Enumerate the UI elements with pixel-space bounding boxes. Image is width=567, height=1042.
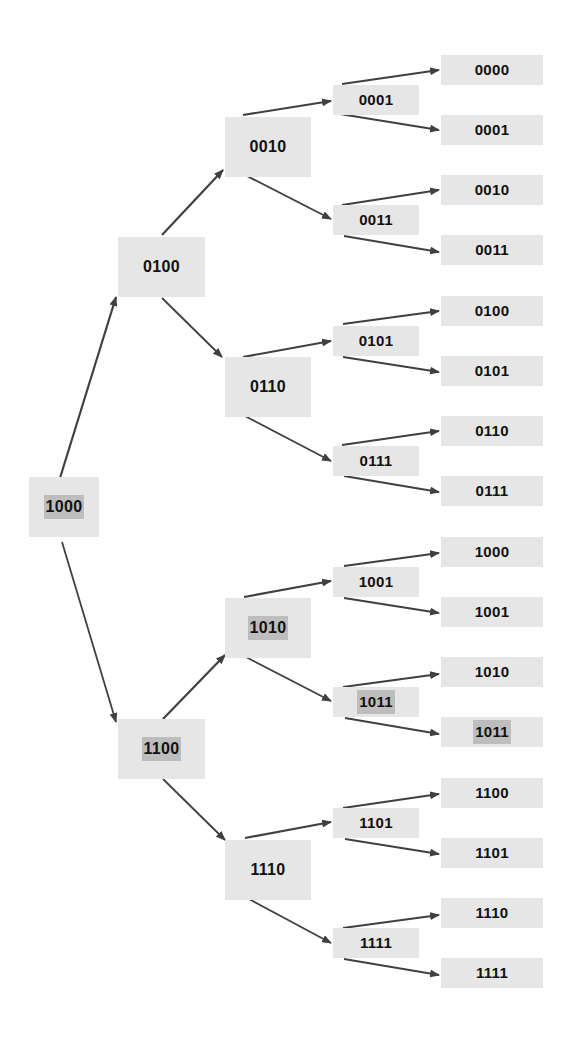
arrow-n0010-to-n0001 xyxy=(243,101,331,115)
node-label: 0100 xyxy=(141,255,182,279)
node-label: 0111 xyxy=(358,449,395,473)
node-n1001: 1001 xyxy=(333,567,419,597)
node-label: 0001 xyxy=(357,88,396,112)
node-n0011: 0011 xyxy=(333,205,419,235)
node-label: 1010 xyxy=(248,616,289,640)
arrow-n0111-to-l0110 xyxy=(342,431,439,445)
arrow-n0100-to-n0110 xyxy=(162,298,222,357)
node-l0001: 0001 xyxy=(441,115,543,145)
node-label: 1001 xyxy=(357,570,396,594)
arrow-n1111-to-l1111 xyxy=(344,959,439,975)
node-label: 0011 xyxy=(473,238,511,262)
arrow-n0011-to-l0011 xyxy=(344,236,439,252)
node-label: 0010 xyxy=(248,135,289,159)
arrow-n1101-to-l1101 xyxy=(345,839,439,854)
arrow-n1000-to-n1100 xyxy=(62,542,116,722)
node-label: 1000 xyxy=(473,540,512,564)
node-l0111: 0111 xyxy=(441,476,543,506)
arrow-n1001-to-l1000 xyxy=(344,553,439,566)
arrow-n1011-to-l1011 xyxy=(345,718,439,734)
arrow-n1011-to-l1010 xyxy=(343,674,439,687)
node-label: 1101 xyxy=(473,841,511,865)
node-n1101: 1101 xyxy=(333,808,419,838)
node-l0110: 0110 xyxy=(441,416,543,446)
node-label: 0000 xyxy=(473,58,512,82)
node-l1010: 1010 xyxy=(441,657,543,687)
node-n1110: 1110 xyxy=(225,840,311,900)
node-n1111: 1111 xyxy=(333,928,419,958)
arrow-n1010-to-n1011 xyxy=(244,656,331,701)
arrow-n0101-to-l0101 xyxy=(343,357,439,372)
node-l1000: 1000 xyxy=(441,537,543,567)
node-label: 0011 xyxy=(357,208,395,232)
arrow-n0001-to-l0001 xyxy=(340,114,439,130)
arrow-n0001-to-l0000 xyxy=(342,70,439,84)
node-label: 0101 xyxy=(357,329,396,353)
node-n1100: 1100 xyxy=(118,719,205,779)
node-n1010: 1010 xyxy=(225,598,311,658)
arrow-n1001-to-l1001 xyxy=(344,598,439,613)
node-label: 1110 xyxy=(248,858,287,882)
node-n1000: 1000 xyxy=(29,477,99,537)
arrow-n0010-to-n0011 xyxy=(245,175,331,219)
arrow-n1000-to-n0100 xyxy=(60,297,116,478)
node-n0111: 0111 xyxy=(333,446,419,476)
node-label: 1011 xyxy=(357,690,395,714)
node-l0101: 0101 xyxy=(441,356,543,386)
node-n0010: 0010 xyxy=(225,117,311,177)
node-n0110: 0110 xyxy=(225,357,311,417)
node-label: 1100 xyxy=(142,737,182,761)
node-label: 1001 xyxy=(473,600,512,624)
node-n0001: 0001 xyxy=(333,85,419,115)
arrow-n1111-to-l1110 xyxy=(343,915,439,928)
node-l1001: 1001 xyxy=(441,597,543,627)
node-label: 1110 xyxy=(474,901,511,925)
arrow-n0111-to-l0111 xyxy=(344,476,439,492)
node-label: 0001 xyxy=(473,118,512,142)
arrow-n0011-to-l0010 xyxy=(342,190,439,205)
node-n0101: 0101 xyxy=(333,326,419,356)
node-l1110: 1110 xyxy=(441,898,543,928)
binary-tree-diagram: 1000010011000010011010101110000100110101… xyxy=(0,0,567,1042)
node-n0100: 0100 xyxy=(118,237,205,297)
node-label: 1010 xyxy=(473,660,512,684)
node-label: 1000 xyxy=(44,495,85,519)
arrow-n1100-to-n1010 xyxy=(163,655,225,719)
arrow-n0110-to-n0111 xyxy=(243,415,331,461)
arrow-n1110-to-n1101 xyxy=(245,822,331,838)
arrow-n0101-to-l0100 xyxy=(343,311,439,324)
node-l1111: 1111 xyxy=(441,958,543,988)
node-label: 1111 xyxy=(358,931,394,955)
node-l0000: 0000 xyxy=(441,55,543,85)
node-l1101: 1101 xyxy=(441,838,543,868)
node-label: 0100 xyxy=(473,299,512,323)
arrow-n1100-to-n1110 xyxy=(163,779,225,840)
arrow-n1101-to-l1100 xyxy=(343,794,439,808)
node-label: 0010 xyxy=(473,178,512,202)
node-l1100: 1100 xyxy=(441,778,543,808)
arrow-n0100-to-n0010 xyxy=(162,170,223,235)
arrow-n0110-to-n0101 xyxy=(243,341,331,357)
node-label: 1101 xyxy=(357,811,395,835)
node-label: 0101 xyxy=(473,359,512,383)
node-label: 1111 xyxy=(474,961,510,985)
node-label: 0111 xyxy=(474,479,511,503)
node-label: 0110 xyxy=(248,375,288,399)
node-label: 1011 xyxy=(473,720,511,744)
node-l0010: 0010 xyxy=(441,175,543,205)
node-label: 0110 xyxy=(473,419,511,443)
arrow-n1110-to-n1111 xyxy=(247,898,331,943)
node-l0100: 0100 xyxy=(441,296,543,326)
node-label: 1100 xyxy=(473,781,511,805)
arrow-n1010-to-n1001 xyxy=(244,581,331,597)
node-n1011: 1011 xyxy=(333,687,419,717)
node-l1011: 1011 xyxy=(441,717,543,747)
node-l0011: 0011 xyxy=(441,235,543,265)
